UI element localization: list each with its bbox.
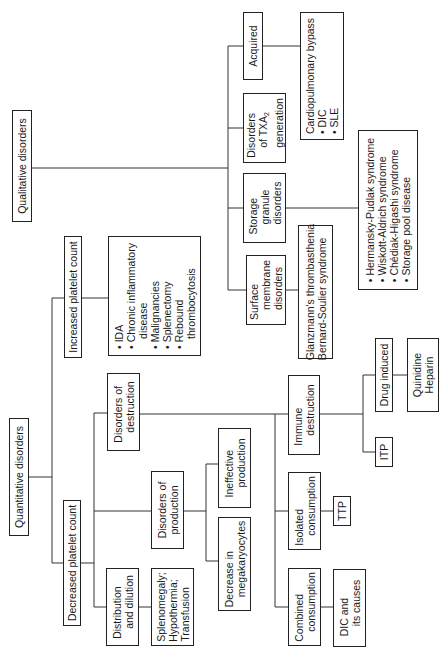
quantitative-disorders-label: Quantitative disorders <box>13 426 25 528</box>
cause-item: Rebound <box>173 243 185 349</box>
immune-destruction-node: Immune destruction <box>288 375 320 455</box>
decreased-platelet-count-label: Decreased platelet count <box>66 505 78 621</box>
txa2-disorders-node: Disorders of TXA2 generation <box>243 93 286 163</box>
increased-causes-list: IDA Chronic inflammatory disease Maligna… <box>108 236 201 356</box>
cause-item: DIC <box>316 18 328 134</box>
increased-platelet-count-node: Increased platelet count <box>64 236 82 358</box>
decrease-megakaryocytes-node: Decrease in megakaryocytes <box>218 517 251 611</box>
cause-item: Storage pool disease <box>400 138 412 282</box>
surface-causes-node: Glanzmann's thrombasthenia Bernard-Souli… <box>298 225 333 359</box>
qualitative-disorders-label: Qualitative disorders <box>16 118 28 214</box>
storage-granule-disorders-node: Storage granule disorders <box>243 173 286 243</box>
combined-consumption-node: Combined consumption <box>288 568 321 646</box>
distribution-causes-node: Splenomegaly; Hypothermia; Transfusion <box>151 568 194 646</box>
ineffective-production-node: Ineffective production <box>218 428 251 508</box>
drug-induced-node: Drug induced <box>375 338 393 412</box>
disorders-of-production-node: Disorders of production <box>151 471 184 549</box>
isolated-consumption-node: Isolated consumption <box>288 472 321 550</box>
increased-platelet-count-label: Increased platelet count <box>67 241 79 353</box>
cause-item: Chronic inflammatory <box>125 243 137 349</box>
cause-item: Wiskott-Aldrich syndrome <box>376 138 388 282</box>
qualitative-disorders-node: Qualitative disorders <box>12 110 32 222</box>
decreased-platelet-count-node: Decreased platelet count <box>63 500 81 626</box>
surface-membrane-disorders-node: Surface membrane disorders <box>246 255 286 325</box>
dic-causes-node: DIC and its causes <box>333 569 366 647</box>
acquired-node: Acquired <box>243 12 263 80</box>
cause-item: Chédiak-Higashi syndrome <box>388 138 400 282</box>
cause-item-cont: thrombocytosis <box>185 243 197 349</box>
disorders-of-destruction-node: Disorders of destruction <box>107 373 140 451</box>
cause-item: Splenectomy <box>161 243 173 349</box>
cause-item-cont: disease <box>137 243 149 349</box>
cause-item: Hermansky-Pudlak syndrome <box>364 138 376 282</box>
quantitative-disorders-node: Quantitative disorders <box>9 418 29 536</box>
cause-item: SLE <box>328 18 340 134</box>
storage-causes-list: Hermansky-Pudlak syndrome Wiskott-Aldric… <box>358 130 418 290</box>
cause-item: IDA <box>113 243 125 349</box>
ttp-node: TTP <box>333 496 351 526</box>
cause-item: Malignancies <box>149 243 161 349</box>
platelet-disorders-diagram: Qualitative disorders Quantitative disor… <box>0 0 446 666</box>
drug-causes-node: Quinidine Heparin <box>407 338 439 412</box>
itp-node: ITP <box>375 437 393 467</box>
acquired-causes-node: Cardiopulmonary bypass DIC SLE <box>300 12 344 140</box>
distribution-dilution-node: Distribution and dilution <box>106 568 139 646</box>
